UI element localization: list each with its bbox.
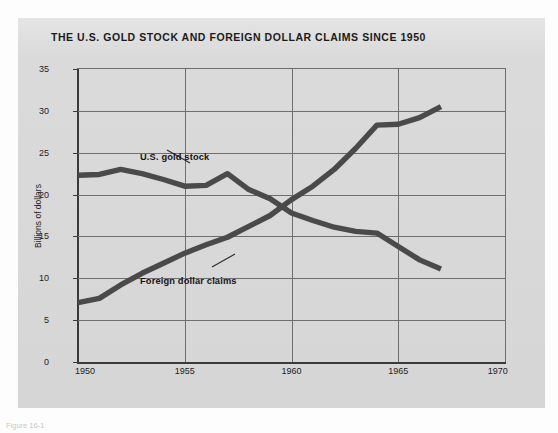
y-tick-label-20: 20 [9, 190, 49, 200]
y-tick-label-5: 5 [9, 315, 49, 325]
x-tick-label-1970: 1970 [488, 366, 508, 376]
y-tick-label-35: 35 [9, 64, 49, 74]
y-tick-mark-0 [73, 362, 78, 363]
y-tick-label-15: 15 [9, 231, 49, 241]
x-tick-label-1950: 1950 [75, 366, 95, 376]
chart-figure: THE U.S. GOLD STOCK AND FOREIGN DOLLAR C… [0, 0, 558, 433]
y-tick-mark-35 [73, 69, 78, 70]
chart-title: THE U.S. GOLD STOCK AND FOREIGN DOLLAR C… [51, 31, 426, 43]
x-tick-label-1955: 1955 [175, 366, 195, 376]
y-tick-mark-15 [73, 236, 78, 237]
x-tick-label-1965: 1965 [388, 366, 408, 376]
gridline-x-1965 [398, 69, 399, 362]
figure-caption: Figure 16-1 [6, 421, 426, 433]
y-tick-label-25: 25 [9, 148, 49, 158]
gridline-x-1955 [185, 69, 186, 362]
y-tick-label-10: 10 [9, 273, 49, 283]
y-tick-mark-25 [73, 153, 78, 154]
y-tick-label-0: 0 [9, 357, 49, 367]
y-tick-mark-30 [73, 111, 78, 112]
foreign-claims-label: Foreign dollar claims [140, 276, 237, 286]
plot-area [78, 69, 505, 362]
x-tick-label-1960: 1960 [281, 366, 301, 376]
gridline-x-1960 [292, 69, 293, 362]
y-tick-mark-5 [73, 320, 78, 321]
y-tick-label-30: 30 [9, 106, 49, 116]
y-tick-mark-20 [73, 195, 78, 196]
plot-frame-right [505, 68, 506, 362]
gold-stock-label: U.S. gold stock [140, 152, 209, 162]
y-axis-line [77, 69, 79, 363]
y-tick-mark-10 [73, 278, 78, 279]
x-axis-line [77, 362, 506, 364]
